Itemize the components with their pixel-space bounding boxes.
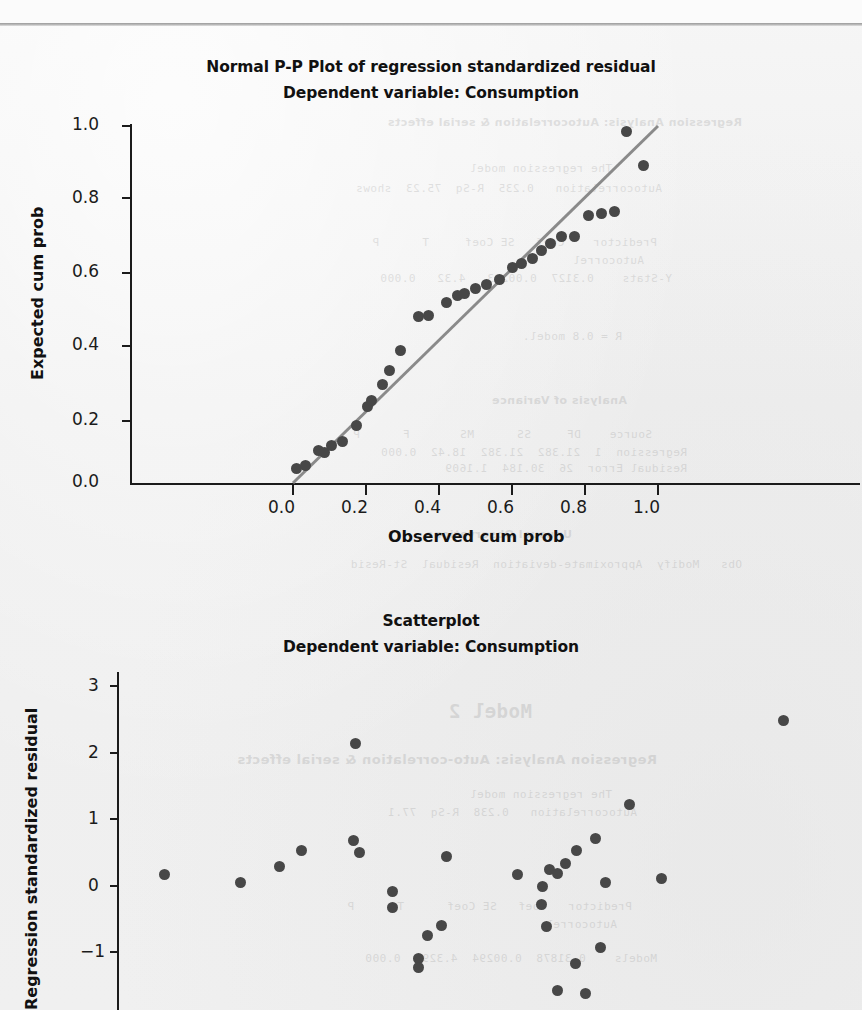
normal-pp-plot: Normal P-P Plot of regression standardiz…	[0, 0, 862, 560]
scatterplot-point	[441, 851, 452, 862]
pp-plot-point	[494, 274, 505, 285]
scatterplot-point	[624, 799, 635, 810]
scatterplot-point	[296, 845, 307, 856]
scatterplot-point	[600, 877, 611, 888]
pp-plot-point	[569, 231, 580, 242]
scatterplot-point	[536, 899, 547, 910]
scatterplot-point	[560, 858, 571, 869]
scatterplot-point	[354, 847, 365, 858]
pp-plot-point	[441, 297, 452, 308]
pp-plot-point	[596, 208, 607, 219]
pp-plot-point	[326, 440, 337, 451]
residual-scatterplot: Scatterplot Dependent variable: Consumpt…	[0, 560, 862, 1010]
scatterplot-point	[778, 715, 789, 726]
scatter-y-tick-label: 0	[88, 875, 99, 895]
scatterplot-point	[235, 877, 246, 888]
pp-plot-point	[638, 160, 649, 171]
scatter-y-tick-label: −1	[80, 941, 105, 961]
scanned-page: Regression Analysis: Autocorrelation & s…	[0, 0, 862, 1010]
pp-plot-reference-line	[0, 0, 862, 560]
scatter-y-axis-line	[117, 672, 119, 1010]
pp-plot-point	[556, 231, 567, 242]
pp-plot-point	[516, 258, 527, 269]
scatterplot-point	[541, 921, 552, 932]
scatterplot-point	[580, 988, 591, 999]
scatterplot-point	[387, 886, 398, 897]
scatterplot-title: Scatterplot	[0, 612, 862, 630]
scatterplot-point	[595, 942, 606, 953]
scatterplot-point	[159, 869, 170, 880]
scatterplot-point	[571, 845, 582, 856]
pp-plot-point	[583, 210, 594, 221]
scatterplot-point	[436, 920, 447, 931]
scatter-y-tick-label: 1	[88, 808, 99, 828]
scatterplot-point	[350, 738, 361, 749]
scatterplot-point	[387, 902, 398, 913]
pp-plot-point	[609, 206, 620, 217]
scatterplot-point	[422, 930, 433, 941]
scatter-y-tick-label: 3	[88, 675, 99, 695]
scatterplot-point	[552, 868, 563, 879]
scatter-y-tick-label: 2	[88, 742, 99, 762]
pp-plot-point	[300, 460, 311, 471]
scatterplot-point	[413, 962, 424, 973]
scatterplot-point	[552, 985, 563, 996]
scatterplot-subtitle: Dependent variable: Consumption	[0, 638, 862, 656]
scatterplot-y-axis-title: Regression standardized residual	[22, 708, 41, 1010]
scatterplot-point	[590, 833, 601, 844]
scatterplot-point	[274, 861, 285, 872]
scatterplot-point	[512, 869, 523, 880]
pp-plot-point	[423, 310, 434, 321]
pp-plot-point	[527, 253, 538, 264]
scatterplot-point	[570, 958, 581, 969]
scatterplot-point	[537, 881, 548, 892]
scatterplot-point	[656, 873, 667, 884]
scatterplot-point	[348, 835, 359, 846]
pp-plot-point	[470, 283, 481, 294]
